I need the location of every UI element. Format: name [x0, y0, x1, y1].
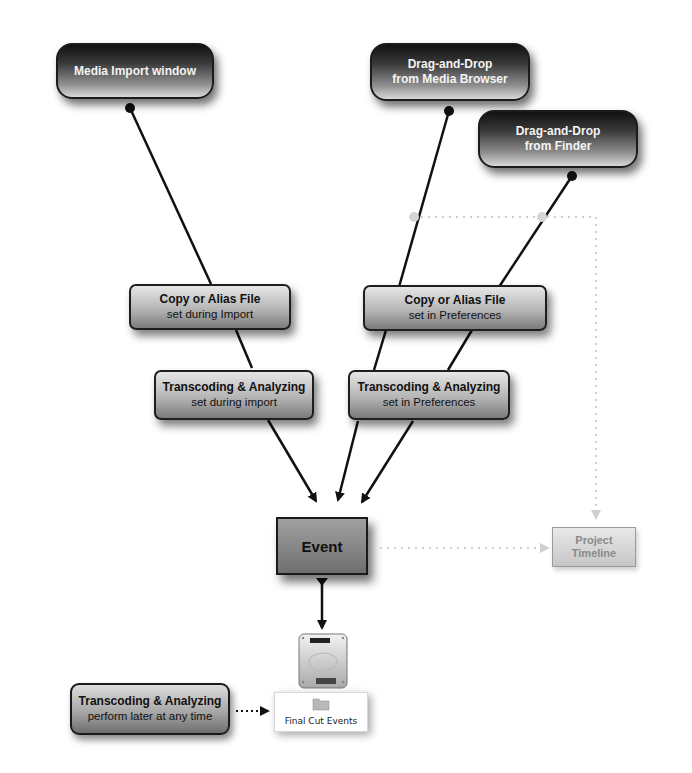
source-label-line2: from Finder [525, 139, 592, 154]
hard-drive-icon [296, 632, 350, 692]
source-drag-drop-media-browser: Drag-and-Drop from Media Browser [370, 43, 530, 101]
event-node: Event [276, 517, 368, 575]
source-media-import-window: Media Import window [56, 43, 214, 99]
node-title: Transcoding & Analyzing [79, 694, 222, 709]
transcode-later-node: Transcoding & Analyzing perform later at… [70, 683, 230, 735]
node-subtitle: perform later at any time [88, 709, 213, 724]
node-title: Transcoding & Analyzing [163, 380, 306, 395]
node-title: Copy or Alias File [405, 293, 506, 308]
folder-label: Final Cut Events [285, 716, 357, 726]
node-subtitle: set in Preferences [409, 308, 502, 323]
timeline-label-line2: Timeline [572, 547, 616, 560]
transcode-in-preferences: Transcoding & Analyzing set in Preferenc… [348, 370, 510, 420]
event-label: Event [302, 538, 343, 555]
node-subtitle: set during Import [167, 307, 253, 322]
folder-icon [312, 697, 330, 711]
node-subtitle: set in Preferences [383, 395, 476, 410]
source-label-line2: from Media Browser [392, 72, 507, 87]
source-label-line1: Drag-and-Drop [516, 124, 601, 139]
node-title: Transcoding & Analyzing [358, 380, 501, 395]
source-label: Media Import window [74, 64, 196, 79]
final-cut-events-folder: Final Cut Events [274, 692, 368, 732]
timeline-label-line1: Project [575, 534, 612, 547]
node-subtitle: set during import [191, 395, 277, 410]
source-drag-drop-finder: Drag-and-Drop from Finder [478, 110, 638, 168]
source-label-line1: Drag-and-Drop [408, 57, 493, 72]
node-title: Copy or Alias File [160, 292, 261, 307]
copy-alias-during-import: Copy or Alias File set during Import [129, 284, 291, 330]
project-timeline-node: Project Timeline [552, 527, 636, 567]
copy-alias-in-preferences: Copy or Alias File set in Preferences [363, 285, 547, 331]
transcode-during-import: Transcoding & Analyzing set during impor… [154, 370, 314, 420]
